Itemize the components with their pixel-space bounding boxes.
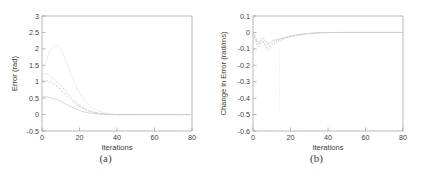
series-a-2: [42, 74, 192, 115]
x-tick-a-3: 60: [151, 133, 159, 142]
y-tick-b-2: -0.4: [238, 94, 250, 103]
y-tick-a-4: 1.5: [29, 61, 39, 70]
panel-caption-b: (b): [211, 152, 422, 164]
series-group-a: [42, 46, 192, 115]
x-tick-b-0: 0: [251, 133, 255, 142]
y-tick-b-0: -0.6: [238, 127, 250, 136]
figure-container: 3 2.5 2 1.5 1 0.5 0 -0.5 0 20 40 60: [0, 0, 422, 182]
x-axis-a: 0 20 40 60 80: [40, 128, 196, 143]
x-tick-b-4: 80: [399, 133, 407, 142]
panel-a: 3 2.5 2 1.5 1 0.5 0 -0.5 0 20 40 60: [0, 0, 211, 182]
x-tick-b-3: 60: [362, 133, 370, 142]
x-tick-a-4: 80: [188, 133, 196, 142]
y-tick-b-1: -0.5: [238, 110, 250, 119]
series-a-0: [42, 97, 192, 115]
y-axis-b: 0.1 0 -0.1 -0.2 -0.3 -0.4 -0.5 -0.6: [238, 12, 257, 136]
series-a-3: [42, 46, 192, 115]
y-tick-a-3: 1: [35, 77, 39, 86]
series-b-1: [253, 32, 403, 48]
x-tick-a-0: 0: [40, 133, 44, 142]
y-axis-title-a: Error (rad): [10, 56, 19, 91]
y-tick-a-5: 2: [35, 44, 39, 53]
series-group-b: [253, 32, 403, 113]
chart-b: 0.1 0 -0.1 -0.2 -0.3 -0.4 -0.5 -0.6 0 20…: [211, 0, 422, 152]
x-tick-b-2: 40: [324, 133, 332, 142]
y-tick-a-0: -0.5: [27, 127, 39, 136]
panel-b: 0.1 0 -0.1 -0.2 -0.3 -0.4 -0.5 -0.6 0 20…: [211, 0, 422, 182]
x-tick-a-1: 20: [76, 133, 84, 142]
series-b-0: [253, 32, 403, 44]
x-tick-a-2: 40: [113, 133, 121, 142]
y-tick-a-2: 0.5: [29, 94, 39, 103]
plot-frame-b: [253, 16, 403, 131]
series-a-1: [42, 80, 192, 115]
x-axis-title-b: Iterations: [312, 143, 343, 152]
plot-frame-a: [42, 16, 192, 131]
y-tick-b-6: 0: [246, 28, 250, 37]
y-tick-b-5: -0.1: [238, 44, 250, 53]
x-axis-title-a: Iterations: [101, 143, 132, 152]
x-axis-b: 0 20 40 60 80: [251, 128, 407, 143]
y-tick-a-7: 3: [35, 12, 39, 21]
y-tick-a-1: 0: [35, 110, 39, 119]
chart-a: 3 2.5 2 1.5 1 0.5 0 -0.5 0 20 40 60: [0, 0, 211, 152]
y-tick-b-3: -0.3: [238, 77, 250, 86]
panel-caption-a: (a): [0, 152, 211, 164]
y-tick-b-7: 0.1: [240, 12, 250, 21]
y-axis-title-b: Change in Error (rad/ms): [219, 31, 228, 115]
y-tick-b-4: -0.2: [238, 61, 250, 70]
y-tick-a-6: 2.5: [29, 28, 39, 37]
x-tick-b-1: 20: [287, 133, 295, 142]
